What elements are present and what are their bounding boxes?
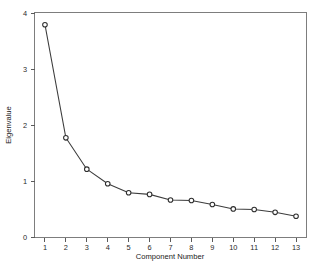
chart-canvas: 0 1 2 3 4 12345678910111213 Component Nu… [0,0,319,265]
x-tick-label-3: 3 [85,243,89,252]
scree-plot-figure: 0 1 2 3 4 12345678910111213 Component Nu… [0,0,319,265]
y-tick-label-1: 1 [23,177,27,186]
x-tick-label-11: 11 [250,243,258,252]
data-point-13 [294,214,299,219]
y-tick-label-3: 3 [23,65,27,74]
y-tick-label-2: 2 [23,121,27,130]
x-tick-label-9: 9 [210,243,214,252]
x-axis-title: Component Number [136,252,205,261]
x-tick-label-6: 6 [148,243,152,252]
x-tick-label-1: 1 [43,243,47,252]
x-tick-label-7: 7 [168,243,172,252]
data-point-1 [43,22,48,27]
x-tick-label-13: 13 [292,243,300,252]
x-tick-label-8: 8 [189,243,193,252]
x-tick-label-5: 5 [127,243,131,252]
data-point-8 [189,198,194,203]
data-point-4 [105,181,110,186]
x-tick-label-2: 2 [64,243,68,252]
data-point-3 [85,167,90,172]
x-tick-label-12: 12 [271,243,279,252]
data-point-2 [64,136,69,141]
data-point-6 [147,192,152,197]
y-tick-label-0: 0 [23,233,27,242]
y-axis-title: Eigenvalue [4,106,13,144]
data-point-7 [168,198,173,203]
data-point-11 [252,207,257,212]
x-tick-label-4: 4 [106,243,110,252]
data-point-12 [273,210,278,215]
data-point-10 [231,207,236,212]
x-tick-label-10: 10 [229,243,237,252]
data-point-9 [210,202,215,207]
data-point-5 [126,190,131,195]
y-tick-label-4: 4 [23,9,27,18]
